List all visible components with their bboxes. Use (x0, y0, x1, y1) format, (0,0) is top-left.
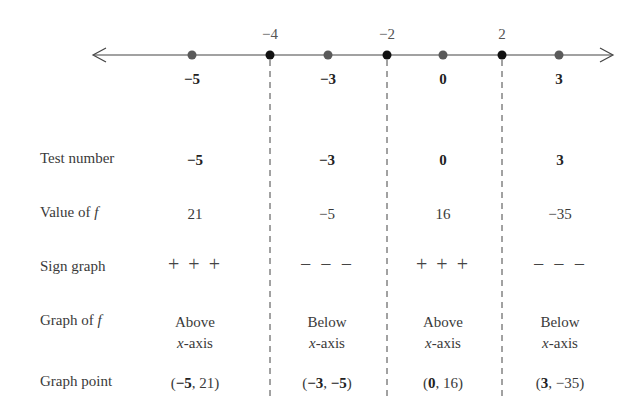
graph-point-cell: (−5, 21) (140, 373, 250, 394)
test-number-cell: −5 (140, 150, 250, 171)
test-point-label: −5 (172, 71, 212, 88)
position-text: Below (272, 312, 382, 333)
critical-point-label: −4 (250, 26, 290, 43)
value-of-f-cell: −35 (505, 204, 615, 225)
critical-point-dot (383, 51, 392, 60)
graph-point-cell: (3, −35) (505, 373, 615, 394)
critical-point-dot (498, 51, 507, 60)
graph-of-f-cell: Belowx-axis (505, 312, 615, 354)
value-of-f-cell: 16 (388, 204, 498, 225)
label-text: Value of (40, 204, 94, 220)
label-text: Graph of (40, 312, 97, 328)
test-point-label: −3 (308, 71, 348, 88)
row-label-value-of-f: Value of f (40, 204, 98, 221)
sign-graph-cell: − − − (505, 254, 615, 275)
row-label-test-number: Test number (40, 150, 114, 167)
graph-of-f-cell: Abovex-axis (388, 312, 498, 354)
row-label-graph-point: Graph point (40, 373, 112, 390)
graph-point-cell: (−3, −5) (272, 373, 382, 394)
sign-graph-cell: + + + (140, 254, 250, 275)
sign-graph-cell: − − − (272, 254, 382, 275)
test-number-cell: −3 (272, 150, 382, 171)
graph-point-cell: (0, 16) (388, 373, 498, 394)
critical-point-label: −2 (367, 26, 407, 43)
test-number-cell: 3 (505, 150, 615, 171)
critical-point-label: 2 (482, 26, 522, 43)
critical-point-dot (266, 51, 275, 60)
test-point-label: 0 (423, 71, 463, 88)
axis-text: x-axis (388, 333, 498, 354)
position-text: Above (140, 312, 250, 333)
value-of-f-cell: −5 (272, 204, 382, 225)
row-label-sign-graph: Sign graph (40, 258, 105, 275)
position-text: Above (388, 312, 498, 333)
row-label-graph-of-f: Graph of f (40, 312, 102, 329)
test-point-dot (188, 51, 197, 60)
sign-graph-cell: + + + (388, 254, 498, 275)
axis-text: x-axis (272, 333, 382, 354)
label-var: f (97, 312, 101, 328)
axis-text: x-axis (140, 333, 250, 354)
test-point-dot (324, 51, 333, 60)
position-text: Below (505, 312, 615, 333)
axis-text: x-axis (505, 333, 615, 354)
test-point-label: 3 (539, 71, 579, 88)
label-var: f (94, 204, 98, 220)
graph-of-f-cell: Abovex-axis (140, 312, 250, 354)
test-number-cell: 0 (388, 150, 498, 171)
test-point-dot (439, 51, 448, 60)
value-of-f-cell: 21 (140, 204, 250, 225)
test-point-dot (555, 51, 564, 60)
graph-of-f-cell: Belowx-axis (272, 312, 382, 354)
